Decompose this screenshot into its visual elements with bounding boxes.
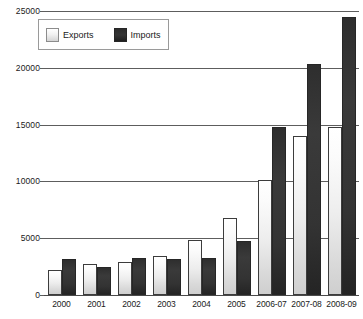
y-tick-label: 15000 (0, 120, 40, 130)
x-tick-label: 2002 (114, 299, 149, 309)
plot-bars (44, 11, 359, 295)
bar-exports (258, 180, 272, 295)
bar-imports (202, 258, 216, 295)
y-tick-label: 10000 (0, 176, 40, 186)
bar-imports (342, 17, 356, 295)
x-tick-label: 2000 (44, 299, 79, 309)
x-axis: 2000200120022003200420052006-072007-0820… (44, 299, 359, 309)
bar-group (114, 11, 149, 295)
bar-group (324, 11, 359, 295)
bar-imports (62, 259, 76, 295)
bar-group (184, 11, 219, 295)
bar-exports (48, 270, 62, 295)
chart-legend: Exports Imports (38, 19, 169, 50)
y-tick-label: 0 (0, 290, 40, 300)
x-tick-label: 2005 (219, 299, 254, 309)
bar-imports (307, 64, 321, 295)
bar-group (289, 11, 324, 295)
bar-group (79, 11, 114, 295)
bar-imports (167, 259, 181, 295)
bar-group (219, 11, 254, 295)
bar-exports (118, 262, 132, 295)
x-tick-label: 2006-07 (254, 299, 289, 309)
bar-exports (293, 136, 307, 295)
x-tick-label: 2001 (79, 299, 114, 309)
x-tick-label: 2003 (149, 299, 184, 309)
legend-entry-imports: Imports (114, 28, 161, 42)
y-tick-label: 20000 (0, 63, 40, 73)
bar-group (254, 11, 289, 295)
y-tick-label: 5000 (0, 233, 40, 243)
bar-exports (223, 218, 237, 295)
legend-label-imports: Imports (131, 30, 161, 40)
y-tick-label: 25000 (0, 6, 40, 16)
bar-exports (83, 264, 97, 295)
bar-chart: 0500010000150002000025000 20002001200220… (0, 0, 363, 319)
exports-swatch-icon (46, 28, 59, 42)
x-tick-label: 2008-09 (324, 299, 359, 309)
x-tick-label: 2007-08 (289, 299, 324, 309)
bar-exports (153, 256, 167, 295)
gridline (44, 295, 359, 296)
bar-imports (97, 267, 111, 295)
x-tick-label: 2004 (184, 299, 219, 309)
bar-group (44, 11, 79, 295)
bar-imports (237, 241, 251, 295)
legend-label-exports: Exports (63, 30, 94, 40)
bar-imports (132, 258, 146, 295)
bar-exports (328, 127, 342, 295)
bar-imports (272, 127, 286, 295)
imports-swatch-icon (114, 28, 127, 42)
bar-exports (188, 240, 202, 295)
y-tick-mark (40, 295, 44, 296)
legend-entry-exports: Exports (46, 28, 94, 42)
bar-group (149, 11, 184, 295)
